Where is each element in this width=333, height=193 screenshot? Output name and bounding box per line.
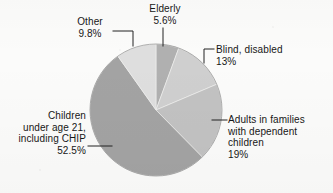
pie-label-blind-disabled: Blind, disabled 13% xyxy=(216,44,328,67)
pie-label-adults-in-families: Adults in families with dependent childr… xyxy=(228,114,332,160)
pie-chart-figure: Elderly 5.6% Other 9.8% Blind, disabled … xyxy=(0,0,333,193)
pie-slices xyxy=(90,44,222,176)
leader-line-blind-disabled xyxy=(204,49,214,63)
pie-label-other: Other 9.8% xyxy=(56,16,124,39)
pie-label-elderly: Elderly 5.6% xyxy=(130,3,200,26)
pie-label-children-under-21: Children under age 21, including CHIP 52… xyxy=(4,110,86,156)
pie-chart-canvas xyxy=(0,0,333,193)
